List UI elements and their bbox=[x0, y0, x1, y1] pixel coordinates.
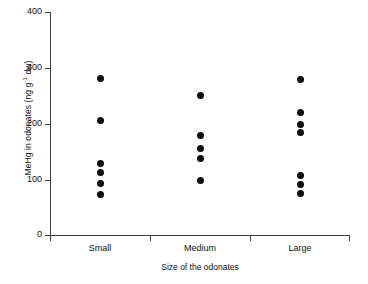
data-point bbox=[297, 172, 304, 179]
data-point bbox=[97, 117, 104, 124]
x-tick-label-large: Large bbox=[250, 244, 350, 253]
x-tick-mark-small-medium bbox=[150, 236, 151, 241]
y-tick-mark-100 bbox=[45, 180, 50, 181]
x-axis-line bbox=[50, 235, 350, 236]
plot-area: 400 300 200 100 0 Small Medium Large bbox=[50, 12, 350, 235]
x-tick-mark-left bbox=[50, 236, 51, 241]
y-tick-label-200: 200 bbox=[8, 119, 42, 128]
y-axis-title-pre: MeHg in odonates (ng g bbox=[23, 83, 33, 176]
x-tick-mark-right bbox=[349, 236, 350, 241]
data-point bbox=[197, 92, 204, 99]
data-point bbox=[297, 129, 304, 136]
y-tick-label-100: 100 bbox=[8, 175, 42, 184]
y-tick-mark-200 bbox=[45, 124, 50, 125]
data-point bbox=[197, 132, 204, 139]
x-axis-title: Size of the odonates bbox=[50, 262, 350, 272]
data-point bbox=[197, 177, 204, 184]
x-tick-label-medium: Medium bbox=[150, 244, 250, 253]
data-point bbox=[97, 180, 104, 187]
y-tick-label-400: 400 bbox=[8, 7, 42, 16]
data-point bbox=[297, 109, 304, 116]
data-point bbox=[297, 121, 304, 128]
data-point bbox=[297, 181, 304, 188]
scatter-plot-figure: MeHg in odonates (ng g-1 dw) 400 300 200… bbox=[0, 0, 368, 284]
data-point bbox=[297, 76, 304, 83]
data-point bbox=[97, 191, 104, 198]
x-tick-label-small: Small bbox=[50, 244, 150, 253]
data-point bbox=[97, 75, 104, 82]
data-point bbox=[197, 145, 204, 152]
data-point bbox=[97, 169, 104, 176]
y-axis-line bbox=[50, 12, 51, 236]
y-tick-mark-400 bbox=[45, 12, 50, 13]
y-tick-label-0: 0 bbox=[8, 230, 42, 239]
x-tick-mark-medium-large bbox=[250, 236, 251, 241]
data-point bbox=[297, 190, 304, 197]
y-axis-title-superscript: -1 bbox=[22, 77, 28, 83]
y-tick-label-300: 300 bbox=[8, 63, 42, 72]
data-point bbox=[197, 155, 204, 162]
y-tick-mark-300 bbox=[45, 68, 50, 69]
data-point bbox=[97, 160, 104, 167]
